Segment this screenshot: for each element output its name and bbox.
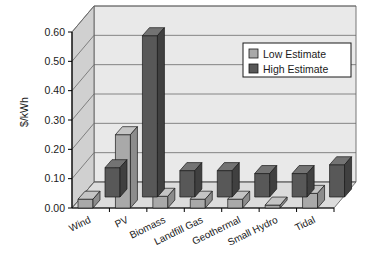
bar-high-biomass[interactable]: Biomass – High Estimate: 0.09 xyxy=(180,163,202,197)
y-axis-tick-label: 0.60 xyxy=(45,26,66,38)
bar-chart-3d: 0.000.100.200.300.400.500.60Tidal – High… xyxy=(0,0,381,278)
y-axis-title: $/kWh xyxy=(18,97,30,127)
bar-high-geothermal[interactable]: Geothermal – High Estimate: 0.08 xyxy=(255,166,277,197)
bar-front-face xyxy=(78,199,93,208)
bar-side-face xyxy=(130,127,137,208)
bar-front-face xyxy=(265,205,280,208)
bar-front-face xyxy=(153,196,168,208)
y-axis-tick-label: 0.00 xyxy=(45,202,66,214)
legend-label: Low Estimate xyxy=(263,48,326,60)
bar-front-face xyxy=(228,199,243,208)
bar-front-face xyxy=(142,36,157,197)
y-axis-tick-label: 0.50 xyxy=(45,55,66,67)
bar-front-face xyxy=(255,174,270,197)
x-axis-label-pv: PV xyxy=(113,214,130,230)
y-axis-tick-label: 0.10 xyxy=(45,172,66,184)
bar-high-pv[interactable]: PV – High Estimate: 0.55 xyxy=(142,28,164,197)
bar-front-face xyxy=(330,165,345,197)
y-axis-tick-label: 0.40 xyxy=(45,84,66,96)
x-axis-label-wind: Wind xyxy=(67,214,92,234)
plot-walls: 0.000.100.200.300.400.500.60Tidal – High… xyxy=(18,6,356,248)
legend-label: High Estimate xyxy=(263,63,329,75)
bar-high-small-hydro[interactable]: Small Hydro – High Estimate: 0.08 xyxy=(292,166,314,197)
bar-front-face xyxy=(105,168,120,197)
x-axis-label-tidal: Tidal xyxy=(293,214,317,233)
y-axis-tick-label: 0.20 xyxy=(45,143,66,155)
bar-front-face xyxy=(217,171,232,197)
bar-side-face xyxy=(157,28,164,197)
legend: Low EstimateHigh Estimate xyxy=(243,43,351,77)
bar-front-face xyxy=(292,174,307,197)
bar-high-landfill-gas[interactable]: Landfill Gas – High Estimate: 0.09 xyxy=(217,163,239,197)
bar-high-wind[interactable]: Wind – High Estimate: 0.1 xyxy=(105,160,127,197)
bar-high-tidal[interactable]: Tidal – High Estimate: 0.11 xyxy=(330,157,352,197)
chart-container: 0.000.100.200.300.400.500.60Tidal – High… xyxy=(0,0,381,278)
bar-front-face xyxy=(190,199,205,208)
y-axis-tick-label: 0.30 xyxy=(45,114,66,126)
legend-swatch xyxy=(249,49,258,58)
legend-swatch xyxy=(249,64,258,73)
bar-front-face xyxy=(180,171,195,197)
